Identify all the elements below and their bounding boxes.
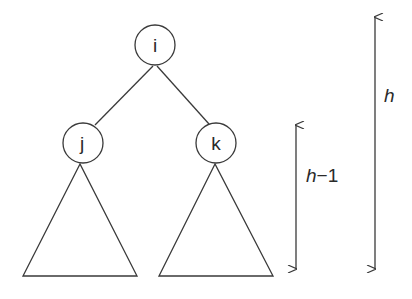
tree-height-label: h	[384, 85, 395, 106]
node-j-label: j	[79, 133, 84, 154]
binary-tree-diagram: i j k h−1 h	[0, 0, 412, 299]
node-j: j	[63, 123, 103, 163]
right-subtree-triangle	[159, 164, 273, 276]
node-k-label: k	[211, 133, 221, 154]
edge-i-j	[95, 66, 153, 125]
left-subtree-triangle	[23, 164, 137, 276]
node-i: i	[135, 25, 175, 65]
node-k: k	[196, 123, 236, 163]
node-i-label: i	[153, 35, 157, 56]
edge-i-k	[157, 66, 209, 124]
subtree-height-label: h−1	[306, 165, 338, 186]
